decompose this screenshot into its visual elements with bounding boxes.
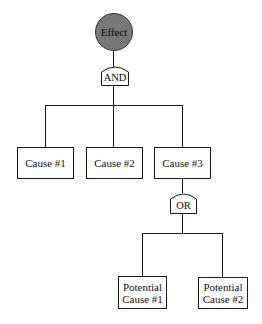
connector-potential-cause1 [142,233,143,276]
effect-node: Effect [95,13,133,51]
cause-2-label: Cause #2 [94,157,135,169]
connector-potential-cause2 [222,233,223,277]
connector-cause3 [182,105,183,147]
connector-or-bus [142,233,223,234]
potential-cause-2-line2: Cause #2 [203,293,244,305]
connector-and-stem [113,85,114,105]
connector-cause3-or [182,178,183,193]
potential-cause-2-box: Potential Cause #2 [198,277,248,309]
potential-cause-1-line2: Cause #1 [122,293,163,305]
potential-cause-1-line1: Potential [123,281,162,293]
connector-or-stem [182,213,183,233]
potential-cause-1-box: Potential Cause #1 [118,276,167,309]
cause-3-label: Cause #3 [162,157,203,169]
and-gate-label: AND [101,72,129,83]
connector-and-bus [45,105,183,106]
connector-cause2 [113,105,114,147]
cause-1-box: Cause #1 [17,147,74,179]
potential-cause-2-line1: Potential [203,281,242,293]
cause-2-box: Cause #2 [86,147,143,179]
or-gate: OR [170,192,197,214]
connector-cause1 [45,105,46,147]
cause-3-box: Cause #3 [154,147,211,179]
cause-1-label: Cause #1 [25,157,66,169]
or-gate-label: OR [170,200,197,211]
and-gate: AND [101,65,129,86]
fault-tree-diagram: Effect AND Cause #1 Cause #2 Cause #3 OR… [0,0,262,324]
effect-label: Effect [101,26,128,38]
